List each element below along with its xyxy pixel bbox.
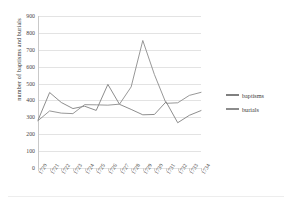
legend-item-baptisms[interactable]: baptisms xyxy=(226,88,290,102)
y-axis-tick-labels: 0100200300400500600700800900 xyxy=(14,16,35,168)
y-axis-tick-label: 0 xyxy=(15,165,35,171)
bottom-divider xyxy=(8,196,284,197)
legend-swatch-icon xyxy=(226,108,239,109)
y-axis-tick-label: 900 xyxy=(15,13,35,19)
x-axis-tick-label: 1734 xyxy=(200,163,211,176)
chart-legend: baptismsburials xyxy=(226,88,290,116)
y-axis-tick-label: 300 xyxy=(15,114,35,120)
y-axis-tick-label: 200 xyxy=(15,131,35,137)
y-axis-tick-label: 700 xyxy=(15,47,35,53)
legend-swatch-icon xyxy=(226,94,239,95)
y-axis-tick-label: 600 xyxy=(15,64,35,70)
y-axis-tick-label: 100 xyxy=(15,148,35,154)
y-axis-tick-label: 800 xyxy=(15,30,35,36)
legend-label: burials xyxy=(242,106,259,113)
data-series-layer xyxy=(38,16,201,168)
y-axis-tick-label: 500 xyxy=(15,81,35,87)
x-axis-tick-labels: 1720172117221723172417251726172717281729… xyxy=(38,172,238,198)
legend-item-burials[interactable]: burials xyxy=(226,102,290,116)
chart-figure: number of baptisms and burials 010020030… xyxy=(0,0,293,203)
y-axis-tick-label: 400 xyxy=(15,97,35,103)
legend-label: baptisms xyxy=(242,92,264,99)
plot-area xyxy=(38,16,201,168)
series-line-burials xyxy=(38,40,201,120)
